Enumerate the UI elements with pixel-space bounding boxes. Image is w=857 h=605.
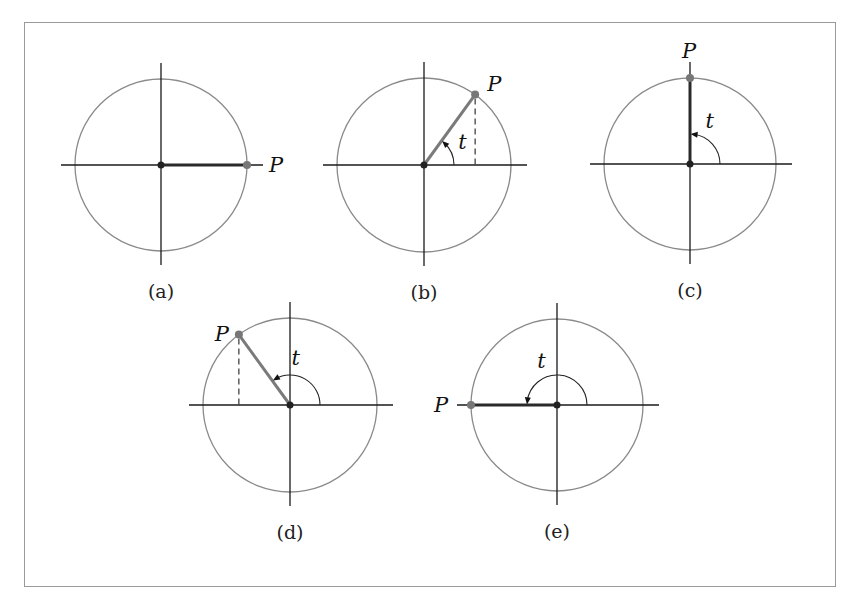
panel-c: tP(c) <box>590 39 792 301</box>
panel-a: P(a) <box>61 63 284 302</box>
origin-point <box>421 162 428 169</box>
point-p-marker <box>686 74 694 82</box>
radius-segment <box>424 95 475 165</box>
point-label-p: P <box>486 72 502 96</box>
panel-b: tP(b) <box>323 62 527 303</box>
angle-arc <box>275 375 320 405</box>
angle-label-t: t <box>705 109 714 133</box>
point-label-p: P <box>681 39 697 63</box>
panel-caption: (a) <box>148 280 174 302</box>
origin-point <box>554 402 561 409</box>
point-p-marker <box>467 401 475 409</box>
angle-label-t: t <box>537 349 546 373</box>
panel-d: tP(d) <box>189 302 393 543</box>
unit-circle-figure: P(a) tP(b) tP(c) tP(d) tP(e) <box>0 0 857 605</box>
panel-e: tP(e) <box>433 303 659 542</box>
origin-point <box>687 161 694 168</box>
angle-label-t: t <box>458 130 467 154</box>
angle-arc <box>694 134 720 164</box>
radius-segment <box>239 335 290 405</box>
origin-point <box>158 162 165 169</box>
point-p-marker <box>243 161 251 169</box>
point-label-p: P <box>433 393 449 417</box>
origin-point <box>287 402 294 409</box>
panel-caption: (b) <box>411 281 438 303</box>
arc-arrowhead-icon <box>691 132 698 138</box>
point-p-marker <box>471 91 479 99</box>
point-label-p: P <box>268 153 284 177</box>
panel-caption: (d) <box>277 521 304 543</box>
point-label-p: P <box>214 322 230 346</box>
panel-caption: (e) <box>544 520 570 542</box>
panel-caption: (c) <box>677 279 702 301</box>
point-p-marker <box>235 331 243 339</box>
arc-arrowhead-icon <box>525 397 531 404</box>
angle-label-t: t <box>292 346 301 370</box>
